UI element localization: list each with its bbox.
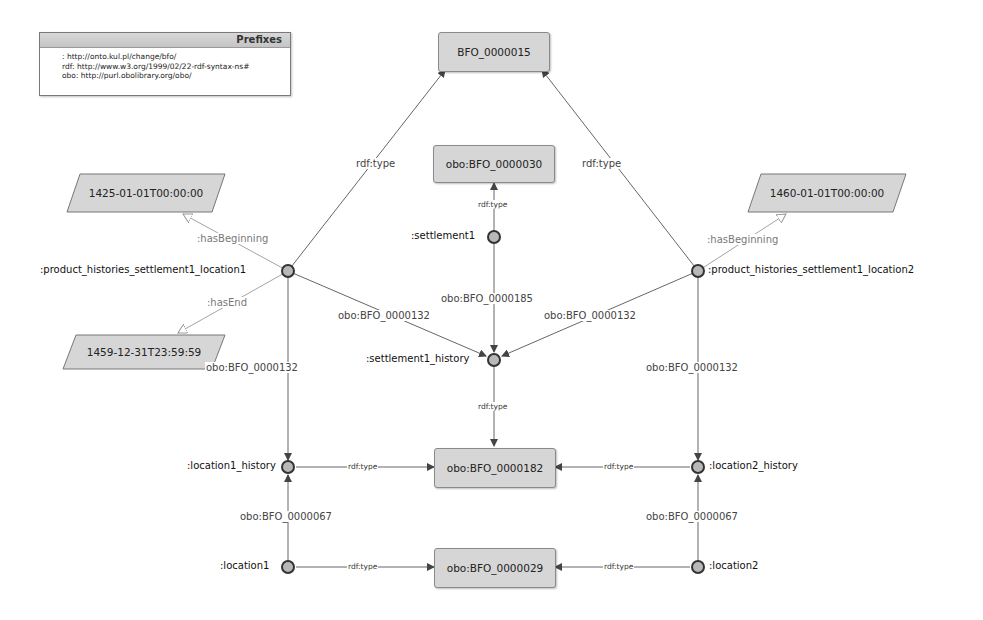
label-location2[interactable]: :location2 (709, 560, 758, 571)
literal-end1-text: 1459-12-31T23:59:59 (87, 346, 202, 358)
label-location1-history[interactable]: :location1_history (187, 460, 276, 471)
edge-label-p1-sh: obo:BFO_0000132 (337, 310, 431, 321)
edge-label-p2-sh: obo:BFO_0000132 (543, 310, 637, 321)
class-bfo-0000030[interactable]: obo:BFO_0000030 (433, 145, 555, 183)
label-location2-history[interactable]: :location2_history (709, 460, 798, 471)
class-bfo-0000029[interactable]: obo:BFO_0000029 (434, 548, 556, 588)
node-location2 (692, 561, 704, 573)
node-location2-history (692, 461, 704, 473)
node-p1 (282, 265, 294, 277)
edge-label-p1-hasbeginning: :hasBeginning (196, 233, 269, 244)
edge-label-l2h-type: rdf:type (603, 462, 634, 471)
prefix-obo: obo: http://purl.obolibrary.org/obo/ (62, 71, 290, 81)
prefix-rdf: rdf: http://www.w3.org/1999/02/22-rdf-sy… (62, 62, 290, 72)
prefixes-panel: Prefixes : http://onto.kul.pl/change/bfo… (39, 32, 291, 96)
literal-begin1-text: 1425-01-01T00:00:00 (89, 187, 204, 199)
prefixes-title: Prefixes (40, 33, 290, 48)
edge-label-l1-l1h: obo:BFO_0000067 (239, 511, 333, 522)
label-settlement1[interactable]: :settlement1 (411, 230, 475, 241)
edge-label-p2-hasbeginning: :hasBeginning (706, 234, 779, 245)
node-p2 (692, 265, 704, 277)
class-bfo-0000182[interactable]: obo:BFO_0000182 (434, 448, 556, 488)
node-location1 (282, 561, 294, 573)
node-settlement1-history (488, 354, 500, 366)
edge-label-p1-type: rdf:type (355, 158, 396, 169)
edge-label-settlement1-type: rdf:type (477, 200, 508, 209)
edge-label-p2-l2h: obo:BFO_0000132 (645, 362, 739, 373)
literal-begin1[interactable]: 1425-01-01T00:00:00 (66, 173, 226, 213)
edge-label-l2-l2h: obo:BFO_0000067 (645, 511, 739, 522)
edge-label-p1-hasend: :hasEnd (206, 297, 248, 308)
edge-label-l1-type: rdf:type (347, 562, 378, 571)
edge-label-l1h-type: rdf:type (347, 462, 378, 471)
edge-label-p2-type: rdf:type (581, 158, 622, 169)
literal-begin2-text: 1460-01-01T00:00:00 (770, 187, 885, 199)
node-location1-history (282, 461, 294, 473)
edge-p2-type (542, 70, 698, 271)
literal-end1[interactable]: 1459-12-31T23:59:59 (62, 334, 226, 370)
label-settlement1-history[interactable]: :settlement1_history (366, 353, 469, 364)
label-p1[interactable]: :product_histories_settlement1_location1 (40, 264, 246, 275)
node-settlement1 (488, 231, 500, 243)
edge-label-s1-sh: obo:BFO_0000185 (440, 293, 534, 304)
edge-label-sh-type: rdf:type (477, 402, 508, 411)
label-p2[interactable]: :product_histories_settlement1_location2 (708, 264, 914, 275)
label-location1[interactable]: :location1 (220, 560, 269, 571)
edge-label-p1-l1h: obo:BFO_0000132 (205, 362, 299, 373)
literal-begin2[interactable]: 1460-01-01T00:00:00 (747, 173, 907, 213)
prefix-default: : http://onto.kul.pl/change/bfo/ (62, 52, 290, 62)
class-bfo-0000015[interactable]: BFO_0000015 (438, 32, 550, 72)
edge-label-l2-type: rdf:type (603, 562, 634, 571)
